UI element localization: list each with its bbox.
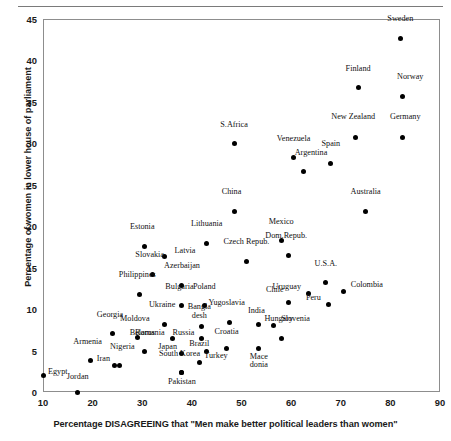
data-point [224,346,229,351]
data-point-label: Slovakia [135,251,164,260]
data-point-label: Egypt [48,368,68,377]
x-tick-60: 60 [276,397,306,408]
y-axis-title: Percentage of women in lower house of pa… [23,32,33,322]
data-point-label: Argentina [295,149,328,158]
data-point-label: Finland [346,65,371,74]
data-point-label: Jordan [67,373,89,382]
y-tick-30: 30 [11,138,37,149]
data-point [286,253,291,258]
data-point-label: Dom.Repub. [265,232,307,241]
y-tick-35: 35 [11,96,37,107]
data-point-label: Iran [97,355,110,364]
data-point-label: Russia [173,329,195,338]
data-point-label: Czech Repub. [223,238,269,247]
data-point-label: S.Africa [220,121,248,130]
x-axis-title: Percentage DISAGREEING that "Men make be… [0,419,451,429]
data-point-label: Pakistan [168,378,196,387]
data-point-label: Yugoslavia [208,299,244,308]
data-point-label: Bangla desh [188,303,211,320]
data-point-label: Spain [321,140,340,149]
data-point [162,322,167,327]
y-tick-40: 40 [11,55,37,66]
data-point-label: South Korea [159,350,200,359]
data-point-label: Venezuela [277,135,311,144]
data-point [232,141,237,146]
data-point-label: Mexico [269,218,294,227]
x-tick-80: 80 [375,397,405,408]
data-point-label: Poland [193,283,216,292]
data-point-label: Nigeria [110,343,135,352]
data-point-label: India [248,307,265,316]
data-point [301,169,306,174]
data-point [256,322,261,327]
y-tick-5: 5 [11,345,37,356]
data-point-label: New Zealand [331,113,375,122]
top-divider-rule [18,6,443,7]
data-point [232,209,237,214]
data-point-label: Ukraine [149,301,175,310]
y-tick-20: 20 [11,221,37,232]
data-point-label: Belarus [130,329,155,338]
data-point-label: Moldova [120,315,150,324]
x-tick-40: 40 [177,397,207,408]
data-point-label: Hungary [264,315,293,324]
data-point-label: China [222,188,242,197]
data-point [326,302,331,307]
x-tick-90: 90 [425,397,451,408]
plot-area [43,19,440,392]
y-tick-45: 45 [11,14,37,25]
data-point [279,336,284,341]
data-point-label: Azerbaijan [164,262,200,271]
x-tick-10: 10 [28,397,58,408]
data-point-label: Colombia [351,281,383,290]
data-point [227,320,232,325]
y-tick-15: 15 [11,262,37,273]
y-tick-10: 10 [11,304,37,315]
data-point-label: Germany [390,113,420,122]
data-point-label: Turkey [204,352,227,361]
data-point-label: Australia [351,188,381,197]
data-point-label: Latvia [175,247,196,256]
data-point-label: Peru [306,294,321,303]
x-tick-50: 50 [227,397,257,408]
data-point-label: Armenia [73,338,102,347]
data-point-label: Croatia [215,328,239,337]
data-point [137,292,142,297]
y-tick-0: 0 [11,387,37,398]
data-point-label: U.S.A. [315,260,338,269]
data-point-label: Brazil [189,340,209,349]
data-point [341,289,346,294]
data-point-label: Sweden [387,15,413,24]
y-tick-25: 25 [11,179,37,190]
data-point-label: Norway [397,73,423,82]
x-tick-20: 20 [78,397,108,408]
data-point [41,373,46,378]
data-point-label: Mace donia [250,353,268,370]
data-point [363,209,368,214]
x-tick-70: 70 [326,397,356,408]
data-point [197,360,202,365]
data-point-label: Chile [266,286,284,295]
data-point-label: Estonia [130,223,155,232]
scatter-chart-figure: Percentage of women in lower house of pa… [0,0,451,441]
data-point [356,85,361,90]
data-point [88,358,93,363]
data-point [75,390,80,395]
x-tick-30: 30 [127,397,157,408]
data-point-label: Lithuania [191,220,222,229]
data-point-label: Philippines [119,271,156,280]
data-point-label: Bulgaria [165,283,193,292]
data-point [142,244,147,249]
data-point [398,36,403,41]
